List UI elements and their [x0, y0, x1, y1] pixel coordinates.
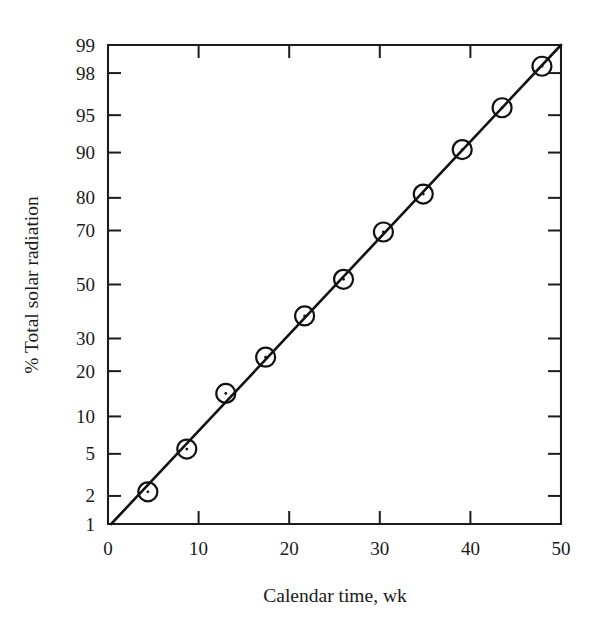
x-axis-tick-label: 0	[103, 538, 113, 559]
x-axis-tick-label: 50	[552, 538, 571, 559]
y-axis-tick-label: 20	[76, 361, 95, 382]
figure-background	[0, 0, 601, 629]
y-axis-tick-label: 80	[76, 187, 95, 208]
x-axis-tick-label: 20	[280, 538, 299, 559]
y-axis-tick-label: 90	[76, 142, 95, 163]
x-axis-tick-label: 10	[189, 538, 208, 559]
x-axis-tick-label: 40	[461, 538, 480, 559]
y-axis-tick-label: 1	[86, 514, 96, 535]
probability-plot: 12510203050708090959899 01020304050 Cale…	[0, 0, 601, 629]
y-axis-tick-label: 5	[86, 443, 96, 464]
y-axis-title: % Total solar radiation	[21, 196, 42, 374]
y-axis-tick-label: 70	[76, 220, 95, 241]
y-axis-tick-label: 10	[76, 406, 95, 427]
y-axis-tick-label: 98	[76, 63, 95, 84]
y-axis-tick-label: 30	[76, 328, 95, 349]
x-axis-title: Calendar time, wk	[263, 585, 407, 606]
x-axis-tick-label: 30	[370, 538, 389, 559]
figure-container: 12510203050708090959899 01020304050 Cale…	[0, 0, 601, 629]
y-axis-tick-label: 2	[86, 485, 96, 506]
y-axis-tick-label: 50	[76, 274, 95, 295]
y-axis-tick-label: 99	[76, 35, 95, 56]
y-axis-tick-label: 95	[76, 105, 95, 126]
